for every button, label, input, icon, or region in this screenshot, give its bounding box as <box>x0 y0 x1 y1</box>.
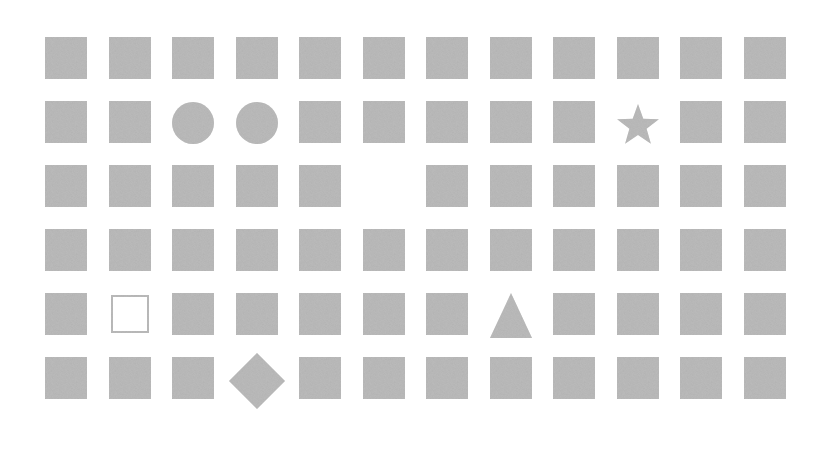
square-icon <box>680 101 722 143</box>
grid-cell-r3-c6 <box>363 165 405 207</box>
square-icon <box>45 37 87 79</box>
square-icon <box>109 101 151 143</box>
grid-cell-r5-c4 <box>236 293 278 335</box>
grid-cell-r2-c8 <box>490 101 532 143</box>
grid-cell-r1-c12 <box>744 37 786 79</box>
square-icon <box>109 357 151 399</box>
square-icon <box>553 357 595 399</box>
diamond-icon <box>236 357 278 399</box>
grid-cell-r6-c11 <box>680 357 722 399</box>
grid-cell-r2-c12 <box>744 101 786 143</box>
square-icon <box>490 229 532 271</box>
square-icon <box>490 357 532 399</box>
grid-cell-r1-c9 <box>553 37 595 79</box>
grid-cell-r1-c10 <box>617 37 659 79</box>
square-icon <box>299 101 341 143</box>
square-icon <box>236 293 278 335</box>
square-icon <box>617 165 659 207</box>
grid-cell-r1-c1 <box>45 37 87 79</box>
grid-cell-r1-c7 <box>426 37 468 79</box>
grid-cell-r4-c11 <box>680 229 722 271</box>
grid-cell-r2-c11 <box>680 101 722 143</box>
square-icon <box>45 229 87 271</box>
square-icon <box>45 101 87 143</box>
square-icon <box>553 101 595 143</box>
square-icon <box>363 229 405 271</box>
square-icon <box>617 229 659 271</box>
grid-cell-r6-c8 <box>490 357 532 399</box>
grid-cell-r2-c2 <box>109 101 151 143</box>
square-icon <box>680 229 722 271</box>
grid-cell-r4-c6 <box>363 229 405 271</box>
grid-cell-r6-c7 <box>426 357 468 399</box>
grid-cell-r6-c12 <box>744 357 786 399</box>
square-icon <box>426 229 468 271</box>
grid-cell-r5-c9 <box>553 293 595 335</box>
grid-cell-r1-c6 <box>363 37 405 79</box>
grid-cell-r6-c1 <box>45 357 87 399</box>
grid-cell-r2-c5 <box>299 101 341 143</box>
square-icon <box>236 229 278 271</box>
square-icon <box>553 37 595 79</box>
square-icon <box>744 37 786 79</box>
square-icon <box>744 165 786 207</box>
grid-cell-r4-c5 <box>299 229 341 271</box>
grid-cell-r1-c3 <box>172 37 214 79</box>
square-icon <box>45 357 87 399</box>
grid-cell-r3-c8 <box>490 165 532 207</box>
square-icon <box>172 357 214 399</box>
square-icon <box>744 101 786 143</box>
grid-cell-r5-c7 <box>426 293 468 335</box>
grid-cell-r4-c10 <box>617 229 659 271</box>
square-icon <box>680 165 722 207</box>
grid-cell-r1-c5 <box>299 37 341 79</box>
square-icon <box>744 229 786 271</box>
square-icon <box>236 165 278 207</box>
square-icon <box>363 101 405 143</box>
square-icon <box>426 293 468 335</box>
square-icon <box>426 101 468 143</box>
grid-cell-r5-c2 <box>109 293 151 335</box>
square-icon <box>553 165 595 207</box>
grid-cell-r5-c1 <box>45 293 87 335</box>
grid-cell-r4-c8 <box>490 229 532 271</box>
square-icon <box>744 357 786 399</box>
grid-cell-r5-c10 <box>617 293 659 335</box>
square-icon <box>363 293 405 335</box>
square-icon <box>172 37 214 79</box>
square-icon <box>490 37 532 79</box>
grid-cell-r4-c1 <box>45 229 87 271</box>
square-icon <box>490 101 532 143</box>
grid-cell-r5-c6 <box>363 293 405 335</box>
square-icon <box>680 37 722 79</box>
square-icon <box>617 37 659 79</box>
grid-cell-r6-c5 <box>299 357 341 399</box>
grid-cell-r3-c12 <box>744 165 786 207</box>
grid-cell-r2-c1 <box>45 101 87 143</box>
grid-cell-r3-c9 <box>553 165 595 207</box>
grid-cell-r1-c4 <box>236 37 278 79</box>
shape-grid <box>0 0 823 451</box>
circle-icon <box>236 101 278 143</box>
grid-cell-r6-c2 <box>109 357 151 399</box>
grid-cell-r4-c7 <box>426 229 468 271</box>
square-icon <box>172 165 214 207</box>
square-icon <box>553 293 595 335</box>
grid-cell-r3-c11 <box>680 165 722 207</box>
square-icon <box>109 165 151 207</box>
grid-cell-r5-c12 <box>744 293 786 335</box>
square-icon <box>363 37 405 79</box>
grid-cell-r1-c2 <box>109 37 151 79</box>
grid-cell-r3-c4 <box>236 165 278 207</box>
grid-cell-r6-c6 <box>363 357 405 399</box>
square-icon <box>299 37 341 79</box>
grid-cell-r6-c4 <box>236 357 278 399</box>
square-icon <box>426 357 468 399</box>
grid-cell-r6-c10 <box>617 357 659 399</box>
grid-cell-r4-c2 <box>109 229 151 271</box>
grid-cell-r5-c8 <box>490 293 532 335</box>
square-icon <box>299 293 341 335</box>
grid-cell-r4-c12 <box>744 229 786 271</box>
grid-cell-r3-c1 <box>45 165 87 207</box>
square-icon <box>299 229 341 271</box>
